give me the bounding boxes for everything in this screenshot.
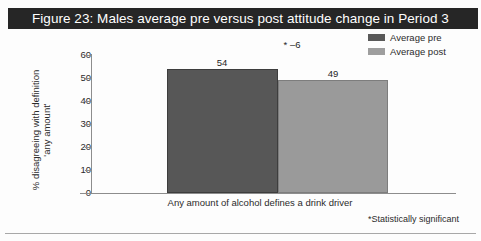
y-tick-mark-50 [85,78,91,79]
figure-footnote: *Statistically significant [368,214,459,225]
plot-area: % disagreeing with definition 'any amoun… [0,0,481,241]
bar-value-average-pre: 54 [202,57,242,68]
y-axis-line [91,54,92,194]
x-axis-category-label: Any amount of alcohol defines a drink dr… [140,197,380,208]
y-tick-mark-10 [85,170,91,171]
y-tick-mark-20 [85,147,91,148]
y-tick-mark-30 [85,124,91,125]
bar-average-post [278,80,388,193]
y-axis-title-line2: 'any amount' [41,55,52,205]
y-tick-mark-0 [85,193,91,194]
y-axis-title: % disagreeing with definition 'any amoun… [30,55,54,205]
y-tick-mark-40 [85,101,91,102]
y-tick-mark-60 [85,55,91,56]
figure-container: Figure 23: Males average pre versus post… [0,0,481,241]
y-axis-title-line1: % disagreeing with definition [30,55,41,205]
delta-annotation: * –6 [262,39,322,50]
bar-average-pre [167,69,278,193]
x-axis-line [80,193,456,194]
bottom-divider [5,233,476,234]
bar-value-average-post: 49 [313,68,353,79]
